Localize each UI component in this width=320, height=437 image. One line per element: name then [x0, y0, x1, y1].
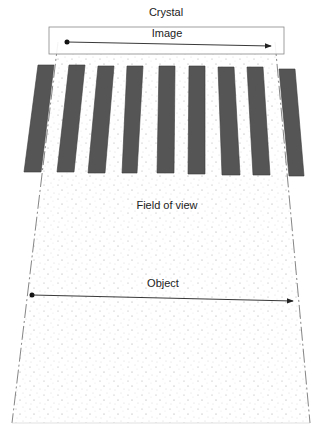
diagram-canvas [0, 0, 320, 437]
object-label: Object [147, 277, 179, 289]
septum-bar-6 [188, 66, 205, 174]
crystal-label: Crystal [149, 6, 183, 18]
septum-bar-5 [157, 66, 175, 173]
field-of-view-label: Field of view [136, 199, 197, 211]
image-label: Image [152, 27, 183, 39]
